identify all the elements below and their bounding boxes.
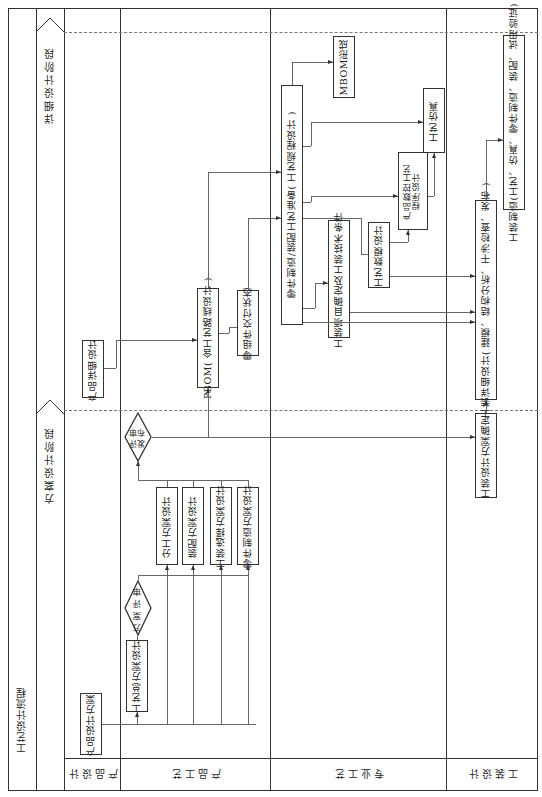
node-division-scheme[interactable]: 分工方案设计 — [156, 487, 178, 565]
phase-chevron-scheme — [36, 390, 64, 418]
connector-prep-mbom-a — [292, 62, 293, 85]
node-product-detailed-design[interactable]: 产品详细设计 — [82, 340, 104, 398]
node-process-simulation[interactable]: 工艺仿真 — [423, 88, 445, 153]
node-tooling-project-confirm[interactable]: 工装项目确定及工装技术条件 — [328, 220, 350, 338]
node-part-mfg-scheme[interactable]: 零件制造方案设计 — [237, 487, 259, 565]
arrow-head — [192, 338, 197, 342]
connector-detailed-mfg-a — [486, 140, 487, 200]
node-process-digital-model[interactable]: 工艺数模设计 — [368, 222, 390, 288]
diagram-title: 工艺设计流程 — [8, 650, 36, 790]
connector-prep-tooling — [303, 322, 475, 323]
lane-divider-3 — [446, 8, 447, 791]
arrow-head — [276, 216, 281, 220]
arrow-head — [470, 320, 475, 324]
lane-label-tooling-design: 工装设计 — [446, 758, 538, 791]
phase-label-detailed: 详细设计阶段 — [36, 40, 64, 130]
phase-separator-middle — [64, 410, 538, 411]
connector-nc-sim-a — [428, 196, 434, 197]
node-review-release-label: 评审 发布 — [124, 412, 152, 462]
node-parts-delivery-state[interactable]: 零组件交付状态 — [237, 290, 259, 356]
connector-detailed-pbom-b — [116, 340, 117, 368]
connector-delivery-prep-a — [248, 218, 249, 290]
node-tooling-manufacture[interactable]: 工装制造(工艺、仿真、零件制造、装配、试用验证) — [503, 35, 525, 210]
phase-chevron-detailed — [36, 8, 64, 36]
connector-prep-toolproj-a — [303, 308, 315, 309]
arrow-head — [432, 153, 436, 158]
arrow-head — [276, 170, 281, 174]
arrow-head — [418, 120, 423, 124]
phase-column-divider — [64, 8, 65, 791]
connector-model-tooling — [390, 276, 475, 277]
connector-nc-sim-b — [434, 153, 435, 196]
connector-detailed-pbom-a — [104, 368, 116, 369]
connector-division-top — [167, 480, 168, 487]
node-part-mfg-assembly-prep[interactable]: 零件制造/装配工艺准备( 工艺规程设计 ) — [281, 85, 303, 325]
node-nc-program-design[interactable]: 产品数控工艺 程序设计 — [398, 152, 428, 230]
arrow-head — [206, 388, 210, 393]
arrow-head — [191, 565, 195, 570]
connector-prep-nc-c — [311, 196, 398, 197]
connector-prep-model-a — [303, 218, 361, 219]
arrow-head — [328, 60, 333, 64]
connector-prep-toolproj-b — [315, 283, 316, 308]
connector-detailed-pbom-c — [116, 340, 197, 341]
node-mbom[interactable]: MBOM形成 — [333, 36, 355, 98]
connector-prep-sim-c — [311, 122, 423, 123]
connector-toolproj-tooling — [350, 312, 475, 313]
node-tooling-selection-scheme[interactable]: 工装选择方案设计 — [210, 487, 232, 565]
connector-pbom-delivery — [219, 333, 229, 334]
connector-prep-mbom-b — [292, 62, 333, 63]
connector-pbom-prep-a — [208, 172, 209, 288]
connector-review-bus — [138, 575, 248, 576]
connector-toolsel-top — [221, 480, 222, 487]
lane-divider-1 — [120, 8, 121, 791]
node-tooling-detailed-design[interactable]: 工装详细设计( 建模、结构分析、干涉检查、发布 ) — [475, 200, 497, 400]
connector-prep-model-c — [361, 254, 368, 255]
connector-bus-part-mfg — [248, 565, 249, 724]
connector-bus-division — [167, 565, 168, 724]
lane-divider-2 — [270, 8, 271, 791]
connector-prep-sim-a — [303, 146, 311, 147]
connector-review-up — [138, 575, 139, 580]
node-assembly-scheme[interactable]: 装配方案设计 — [182, 487, 204, 565]
arrow-head — [406, 230, 410, 235]
arrow-head — [136, 461, 140, 466]
arrow-head — [470, 435, 475, 439]
lane-label-product-process: 产品工艺 — [120, 758, 270, 791]
diagram-title-text: 工艺设计流程 — [17, 687, 28, 753]
phase-label-scheme: 方案设计阶段 — [36, 420, 64, 510]
connector-partmfg-top — [248, 480, 249, 487]
arrow-head — [484, 400, 488, 405]
arrow-head — [498, 138, 503, 142]
arrow-head — [165, 565, 169, 570]
connector-prep-sim-b — [311, 122, 312, 146]
connector-model-nc-a — [390, 242, 408, 243]
connector-assembly-top — [193, 480, 194, 487]
connector-pbom-delivery-c — [229, 327, 237, 328]
connector-overall-review — [137, 636, 138, 640]
arrow-head — [246, 565, 250, 570]
arrow-head — [323, 281, 328, 285]
phase-separator-top — [64, 32, 538, 33]
arrow-head — [470, 274, 475, 278]
connector-pd-to-overall — [102, 724, 256, 725]
node-tooling-scheme-confirm[interactable]: 工装设计方案确定 — [475, 413, 497, 498]
connector-release-tooling — [152, 437, 475, 438]
connector-pbom-prep-b — [208, 172, 281, 173]
arrow-head — [219, 565, 223, 570]
node-product-design-scheme[interactable]: 产品设计方案 — [80, 693, 102, 755]
node-process-overall-scheme[interactable]: 工艺总方案设计 — [126, 640, 148, 712]
connector-bus-assembly — [193, 565, 194, 724]
lane-label-product-design: 产品设计 — [64, 758, 120, 791]
connector-bus-tooling-select — [221, 565, 222, 724]
connector-prep-model-b — [361, 218, 362, 254]
lane-label-specialty-process: 专业工艺 — [270, 758, 446, 791]
node-pbom[interactable]: PBOM( 含工艺路线设计 ) — [197, 288, 219, 388]
arrow-head — [470, 310, 475, 314]
connector-prep-nc-a — [303, 202, 311, 203]
arrow-head — [135, 712, 139, 717]
arrow-head — [393, 194, 398, 198]
connector-release-pbom — [208, 388, 209, 437]
node-scheme-review-label: 方案评审 — [124, 580, 152, 636]
